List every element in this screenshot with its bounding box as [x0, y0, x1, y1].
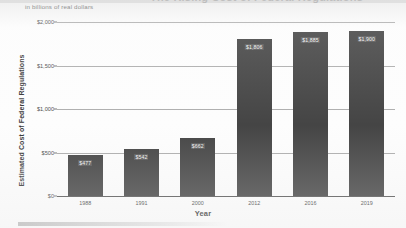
y-tick-label-500: $500: [42, 150, 54, 156]
bar-group: $1,8062012: [237, 22, 272, 196]
bar-value-label: $1,806: [245, 44, 263, 50]
x-tick-label-2000: 2000: [192, 200, 204, 206]
bar: [237, 39, 272, 196]
bar-value-label: $662: [191, 143, 205, 149]
bar-value-label: $542: [135, 154, 149, 160]
x-tick-label-2019: 2019: [361, 200, 373, 206]
x-tick-label-1991: 1991: [135, 200, 147, 206]
chart-subtitle: in billions of real dollars: [25, 3, 93, 10]
bar-series: $4771988$5421991$6622000$1,8062012$1,885…: [57, 22, 395, 196]
x-tick-label-2016: 2016: [304, 200, 316, 206]
bar: [349, 31, 384, 196]
bar: [293, 32, 328, 196]
bar-value-label: $1,900: [358, 36, 376, 42]
y-axis-title: Estimated Cost of Federal Regulations: [18, 57, 25, 187]
y-tick-label-2000: $2,000: [37, 19, 54, 25]
x-axis-title: Year: [0, 209, 406, 218]
y-tick-label-1000: $1,000: [37, 106, 54, 112]
bar-value-label: $1,885: [301, 37, 319, 43]
bar-group: $1,9002019: [349, 22, 384, 196]
x-tick-label-1988: 1988: [79, 200, 91, 206]
bar-group: $5421991: [124, 22, 159, 196]
bar-value-label: $477: [78, 160, 92, 166]
chart-container: The Rising Cost of Federal Regulations i…: [0, 0, 406, 228]
x-tick-label-2012: 2012: [248, 200, 260, 206]
bar-group: $4771988: [68, 22, 103, 196]
bar-group: $1,8852016: [293, 22, 328, 196]
plot-area: $0$500$1,000$1,500$2,000 $4771988$542199…: [57, 22, 395, 196]
y-tick-label-1500: $1,500: [37, 63, 54, 69]
scan-crop-edge: [0, 0, 406, 3]
bar-group: $6622000: [180, 22, 215, 196]
scan-artifact-footer: [18, 222, 228, 226]
gridline-0: [57, 196, 395, 197]
